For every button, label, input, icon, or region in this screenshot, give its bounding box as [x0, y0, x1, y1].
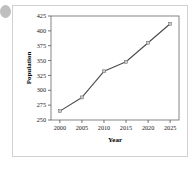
data-point-2000	[58, 110, 61, 113]
y-tick-label-325: 325	[37, 72, 46, 79]
x-tick-label-2020: 2020	[142, 124, 154, 131]
x-axis-title: Year	[108, 136, 122, 144]
y-tick-label-400: 400	[37, 27, 46, 34]
x-tick-label-2010: 2010	[98, 124, 110, 131]
y-tick-label-300: 300	[37, 86, 46, 93]
population-line-chart: 425 400 375 350 325 300 275 250	[13, 6, 187, 156]
data-point-2025	[169, 22, 172, 25]
x-tick-label-2025: 2025	[164, 124, 176, 131]
x-tick-label-2005: 2005	[76, 124, 88, 131]
data-point-2010	[102, 70, 105, 73]
chart-canvas: 425 400 375 350 325 300 275 250	[13, 6, 189, 158]
data-point-2005	[80, 96, 83, 99]
screenshot-root: 425 400 375 350 325 300 275 250	[0, 0, 195, 169]
data-point-2015	[125, 60, 128, 63]
y-axis-title: Population	[25, 52, 33, 85]
bullet-dot-icon	[0, 5, 11, 18]
data-point-2020	[147, 41, 150, 44]
y-tick-label-375: 375	[37, 42, 46, 49]
y-tick-label-350: 350	[37, 57, 46, 64]
y-tick-label-250: 250	[37, 116, 46, 123]
y-tick-label-425: 425	[37, 12, 46, 19]
x-tick-label-2000: 2000	[54, 124, 66, 131]
x-axis: 2000 2005 2010 2015 2020 2025	[54, 120, 177, 131]
y-tick-label-275: 275	[37, 101, 46, 108]
y-axis: 425 400 375 350 325 300 275 250	[37, 12, 51, 123]
x-tick-label-2015: 2015	[120, 124, 132, 131]
chart-card: 425 400 375 350 325 300 275 250	[12, 5, 188, 157]
